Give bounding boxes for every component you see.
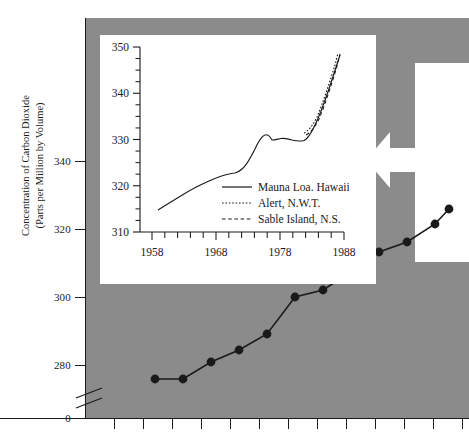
main-y-tick-label-280: 280 xyxy=(31,360,71,371)
inset-y-tick-label-310: 310 xyxy=(112,226,130,238)
inset-x-ticks xyxy=(152,232,344,240)
main-y-tick-label-300: 300 xyxy=(31,292,71,303)
main-x-tick xyxy=(346,419,347,429)
main-y-tick-280 xyxy=(75,365,86,366)
main-x-tick xyxy=(259,419,260,429)
main-y-tick-label-0: 0 xyxy=(31,413,71,424)
inset-legend: Mauna Loa. Hawaii Alert, N.W.T. Sable Is… xyxy=(222,181,350,226)
inset-y-major-ticks xyxy=(133,47,140,232)
main-y-tick-340 xyxy=(75,161,86,162)
main-x-tick xyxy=(114,419,115,429)
inset-x-tick-label-1968: 1968 xyxy=(205,246,228,258)
inset-panel: 350 340 330 320 310 xyxy=(100,35,376,284)
y-axis-break-icon xyxy=(74,382,104,410)
inset-chart: 350 340 330 320 310 xyxy=(100,35,376,284)
main-x-tick xyxy=(317,419,318,429)
legend-label-sable-island: Sable Island, N.S. xyxy=(258,213,341,226)
inset-series-sable-island xyxy=(306,54,340,135)
inset-x-tick-label-1958: 1958 xyxy=(141,246,164,258)
inset-y-tick-label-320: 320 xyxy=(112,180,130,192)
figure-root: 340 320 300 280 0 Concentration of Carbo… xyxy=(0,0,469,442)
main-x-tick xyxy=(433,419,434,429)
main-y-tick-0 xyxy=(75,418,86,419)
main-y-axis-title-line2: (Parts per Million by Volume) xyxy=(32,56,46,276)
main-y-axis-title-line1: Concentration of Carbon Dioxide xyxy=(19,56,33,276)
main-y-tick-300 xyxy=(75,297,86,298)
main-x-tick xyxy=(462,419,463,429)
inset-series-alert xyxy=(304,53,338,133)
main-x-tick xyxy=(404,419,405,429)
inset-x-tick-label-1978: 1978 xyxy=(269,246,292,258)
main-y-axis-line xyxy=(85,18,86,418)
callout-white-block xyxy=(415,63,469,262)
main-x-tick xyxy=(288,419,289,429)
legend-label-mauna-loa: Mauna Loa. Hawaii xyxy=(258,181,350,193)
main-y-axis-title: Concentration of Carbon Dioxide (Parts p… xyxy=(19,56,46,276)
inset-x-tick-label-1988: 1988 xyxy=(333,246,356,258)
main-x-tick xyxy=(172,419,173,429)
legend-label-alert: Alert, N.W.T. xyxy=(258,197,320,210)
inset-y-tick-label-340: 340 xyxy=(112,87,130,99)
main-x-tick xyxy=(143,419,144,429)
inset-y-tick-label-350: 350 xyxy=(112,41,130,53)
main-y-tick-320 xyxy=(75,229,86,230)
inset-y-tick-label-330: 330 xyxy=(112,134,130,146)
main-x-tick xyxy=(201,419,202,429)
main-x-tick xyxy=(230,419,231,429)
main-x-tick xyxy=(375,419,376,429)
